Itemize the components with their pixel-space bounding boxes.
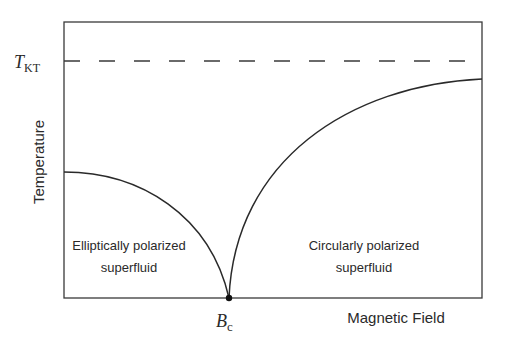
circular-region-label-line1: Circularly polarized (309, 238, 420, 253)
elliptical-phase-boundary (64, 172, 229, 298)
x-axis-label: Magnetic Field (347, 309, 445, 326)
elliptical-region-label-line1: Elliptically polarized (72, 238, 185, 253)
plot-frame (64, 22, 482, 298)
b-c-label: Bc (216, 311, 233, 334)
circular-region-label-line2: superfluid (336, 260, 392, 275)
phase-diagram: TKT Bc Temperature Magnetic Field Ellipt… (0, 0, 506, 342)
elliptical-region-label-line2: superfluid (101, 260, 157, 275)
bc-critical-point (226, 295, 232, 301)
y-axis-label: Temperature (30, 120, 47, 204)
t-kt-label: TKT (14, 52, 41, 75)
